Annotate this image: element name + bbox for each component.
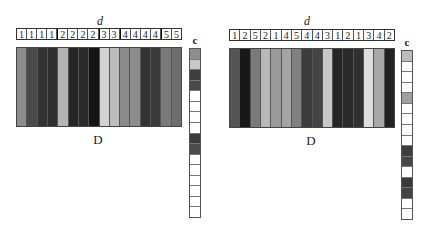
matrix-column (27, 48, 37, 126)
c-cell (190, 155, 200, 166)
c-vector (189, 48, 201, 218)
d-header-cell: 2 (343, 30, 353, 40)
matrix-column (141, 48, 151, 126)
matrix-column (79, 48, 89, 126)
c-cell (190, 70, 200, 81)
c-cell (402, 83, 412, 94)
c-cell (190, 207, 200, 217)
d-header-cell: 5 (172, 29, 181, 39)
d-label: d (90, 14, 110, 29)
c-cell (402, 51, 412, 62)
matrix-column (292, 49, 302, 127)
d-header-cell: 5 (251, 30, 261, 40)
d-header-cell: 1 (37, 29, 47, 39)
matrix-column (385, 49, 394, 127)
d-header-cell: 4 (141, 29, 151, 39)
c-cell (190, 112, 200, 123)
c-vector (401, 50, 413, 220)
c-cell (190, 165, 200, 176)
d-header-cell: 2 (78, 29, 88, 39)
c-cell (190, 186, 200, 197)
d-header-cell: 5 (292, 30, 302, 40)
d-header-cell: 4 (131, 29, 141, 39)
d-header-cell: 2 (57, 29, 68, 39)
matrix-column (374, 49, 384, 127)
d-label: d (297, 14, 317, 29)
c-cell (402, 146, 412, 157)
c-cell (402, 93, 412, 104)
d-header-row: 1111222233444455 (16, 28, 182, 40)
matrix-column (313, 49, 323, 127)
matrix-column (17, 48, 27, 126)
d-header-cell: 1 (354, 30, 364, 40)
c-label: c (188, 34, 202, 46)
d-header-cell: 2 (240, 30, 250, 40)
d-header-cell: 4 (151, 29, 161, 39)
matrix-column (343, 49, 353, 127)
d-header-cell: 5 (161, 29, 172, 39)
c-cell (190, 176, 200, 187)
panel-right: d 1252145443121342 D c (212, 0, 424, 230)
matrix-column (89, 48, 99, 126)
c-cell (402, 209, 412, 219)
c-label: c (400, 36, 414, 48)
c-cell (402, 157, 412, 168)
d-header-cell: 3 (99, 29, 110, 39)
c-cell (402, 125, 412, 136)
c-cell (402, 114, 412, 125)
matrix-column (38, 48, 48, 126)
matrix-column (130, 48, 140, 126)
matrix-column (172, 48, 181, 126)
c-cell (402, 188, 412, 199)
c-cell (402, 104, 412, 115)
d-header-cell: 2 (385, 30, 394, 40)
d-header-cell: 2 (88, 29, 98, 39)
matrix-column (230, 49, 240, 127)
matrix-column (69, 48, 79, 126)
matrix-column (240, 49, 250, 127)
matrix-column (354, 49, 364, 127)
d-header-cell: 4 (282, 30, 292, 40)
c-cell (190, 49, 200, 60)
c-cell (190, 60, 200, 71)
matrix-column (333, 49, 343, 127)
d-header-cell: 1 (333, 30, 343, 40)
c-cell (190, 144, 200, 155)
matrix-column (120, 48, 130, 126)
d-header-cell: 4 (374, 30, 384, 40)
D-matrix (16, 47, 182, 127)
d-header-cell: 2 (261, 30, 271, 40)
d-header-cell: 3 (323, 30, 333, 40)
c-cell (402, 167, 412, 178)
d-header-cell: 3 (364, 30, 374, 40)
d-header-cell: 1 (230, 30, 240, 40)
d-header-cell: 4 (120, 29, 131, 39)
d-header-cell: 1 (27, 29, 37, 39)
c-cell (190, 197, 200, 208)
D-label: D (88, 132, 108, 148)
matrix-column (110, 48, 120, 126)
matrix-column (151, 48, 161, 126)
D-label: D (301, 133, 321, 149)
matrix-column (161, 48, 171, 126)
d-header-cell: 4 (313, 30, 323, 40)
matrix-column (48, 48, 58, 126)
matrix-column (302, 49, 312, 127)
d-header-cell: 4 (302, 30, 312, 40)
d-header-cell: 1 (47, 29, 57, 39)
matrix-column (261, 49, 271, 127)
matrix-column (364, 49, 374, 127)
d-header-cell: 2 (68, 29, 78, 39)
c-cell (190, 123, 200, 134)
c-cell (190, 102, 200, 113)
matrix-column (100, 48, 110, 126)
d-header-row: 1252145443121342 (229, 29, 395, 41)
d-header-cell: 3 (110, 29, 120, 39)
c-cell (402, 199, 412, 210)
matrix-column (251, 49, 261, 127)
c-cell (402, 62, 412, 73)
D-matrix (229, 48, 395, 128)
matrix-column (58, 48, 68, 126)
d-header-cell: 1 (17, 29, 27, 39)
c-cell (402, 178, 412, 189)
